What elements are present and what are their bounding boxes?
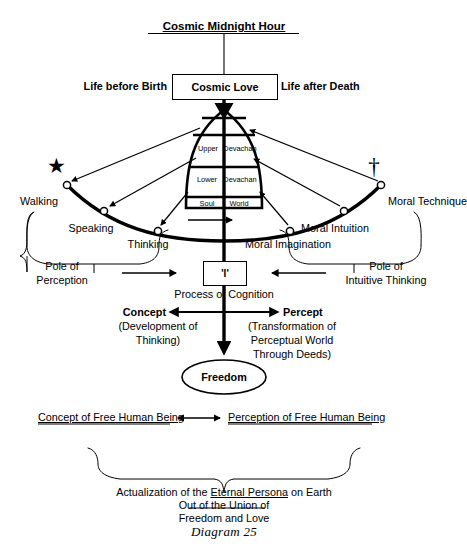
dome-band-3-left: Soul bbox=[200, 200, 215, 209]
arc-label-moral-imagination: Moral Imagination bbox=[245, 238, 331, 251]
dome-band-2-left: Lower bbox=[197, 176, 217, 185]
dome-band-2-right: Devachan bbox=[223, 176, 256, 185]
percept-sub-line1: (Transformation of bbox=[248, 320, 336, 333]
arc-label-moral-intuition: Moral Intuition bbox=[301, 222, 369, 235]
percept-sub-line2: Perceptual World bbox=[251, 334, 334, 347]
ray-moral-imagination-to-dome bbox=[260, 192, 288, 225]
freedom-label: Freedom bbox=[201, 371, 247, 384]
conclusion-line3: Freedom and Love bbox=[179, 512, 270, 525]
dome-band-1-right: Devachan bbox=[223, 145, 256, 154]
life-after-death-label: Life after Death bbox=[281, 80, 360, 93]
ego-box: 'I' bbox=[203, 261, 247, 286]
conclusion-line2: Out of the Union of bbox=[179, 499, 270, 512]
conclusion-line1: Actualization of the Eternal Persona on … bbox=[116, 486, 332, 499]
perception-of-free-human-being: Perception of Free Human Being bbox=[228, 411, 385, 424]
arc-node-walking bbox=[63, 181, 70, 188]
conclusion-eternal-persona: Eternal Persona bbox=[210, 486, 287, 498]
arc-node-moral-imagination bbox=[286, 227, 293, 234]
dome-band-1-left: Upper bbox=[198, 145, 218, 154]
arc-label-moral-technique: Moral Technique bbox=[388, 195, 467, 208]
percept-title: Percept bbox=[283, 306, 323, 319]
dome-center-line bbox=[223, 118, 225, 208]
arc-node-moral-intuition bbox=[340, 207, 347, 214]
arc-label-thinking: Thinking bbox=[128, 238, 169, 251]
ray-dome-to-thinking bbox=[161, 192, 188, 225]
pole-of-perception-line1: Pole of bbox=[45, 260, 79, 273]
pole-of-intuitive-thinking-line1: Pole of bbox=[369, 260, 403, 273]
arc-node-moral-technique bbox=[377, 181, 384, 188]
conclusion-line1-post: on Earth bbox=[288, 486, 332, 498]
dome-band-3-right: World bbox=[229, 200, 248, 209]
cross-icon: † bbox=[368, 155, 380, 178]
cosmic-love-box: Cosmic Love bbox=[172, 74, 278, 100]
concept-of-free-human-being: Concept of Free Human Being bbox=[38, 411, 184, 424]
arc-label-walking: Walking bbox=[20, 195, 58, 208]
arc-node-thinking bbox=[154, 227, 161, 234]
life-before-birth-label: Life before Birth bbox=[84, 80, 167, 93]
star-icon: ★ bbox=[47, 155, 66, 176]
concept-title: Concept bbox=[123, 306, 166, 319]
pole-of-perception-line2: Perception bbox=[36, 274, 88, 287]
conclusion-line1-pre: Actualization of the bbox=[116, 486, 210, 498]
percept-sub-line3: Through Deeds) bbox=[253, 348, 331, 361]
ray-dome-to-walking bbox=[72, 128, 200, 181]
ray-moral-technique-to-dome bbox=[250, 130, 378, 181]
arc-label-speaking: Speaking bbox=[68, 222, 113, 235]
pole-of-intuitive-thinking-line2: Intuitive Thinking bbox=[346, 274, 427, 287]
diagram-caption: Diagram 25 bbox=[191, 524, 257, 540]
arc-node-speaking bbox=[100, 207, 107, 214]
ray-moral-intuition-to-dome bbox=[254, 159, 340, 206]
concept-sub-line2: Thinking) bbox=[136, 334, 180, 347]
page-title: Cosmic Midnight Hour bbox=[163, 20, 286, 34]
concept-sub-line1: (Development of bbox=[118, 320, 197, 333]
process-of-cognition-label: Process of Cognition bbox=[174, 288, 274, 301]
